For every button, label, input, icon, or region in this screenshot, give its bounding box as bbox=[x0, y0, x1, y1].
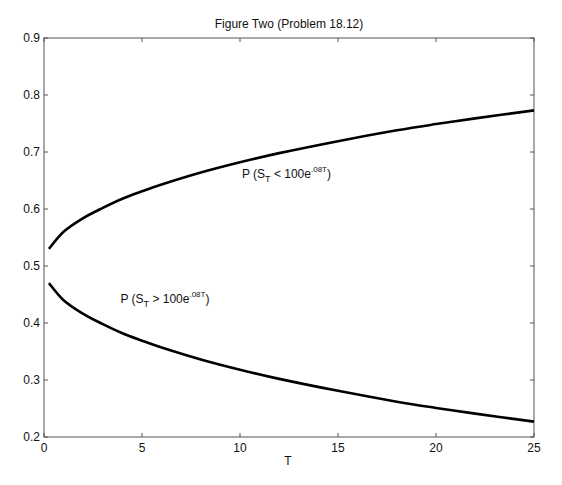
x-tick-label: 20 bbox=[429, 441, 443, 455]
x-axis-label: T bbox=[284, 454, 292, 468]
y-tick-label: 0.3 bbox=[23, 373, 40, 387]
y-axis-tick-labels: 0.20.30.40.50.60.70.80.9 bbox=[23, 31, 40, 444]
y-tick-label: 0.5 bbox=[23, 259, 40, 273]
chart-title: Figure Two (Problem 18.12) bbox=[215, 17, 364, 31]
x-axis-tick-labels: 0510152025 bbox=[41, 441, 541, 455]
y-tick-label: 0.4 bbox=[23, 316, 40, 330]
x-tick-label: 5 bbox=[139, 441, 146, 455]
x-tick-label: 0 bbox=[41, 441, 48, 455]
plot-area bbox=[44, 38, 534, 437]
x-tick-label: 25 bbox=[527, 441, 541, 455]
y-tick-label: 0.6 bbox=[23, 202, 40, 216]
y-tick-label: 0.7 bbox=[23, 145, 40, 159]
y-tick-label: 0.2 bbox=[23, 430, 40, 444]
x-tick-label: 10 bbox=[233, 441, 247, 455]
y-tick-label: 0.8 bbox=[23, 88, 40, 102]
line-chart: Figure Two (Problem 18.12) 0.20.30.40.50… bbox=[0, 0, 562, 485]
y-tick-label: 0.9 bbox=[23, 31, 40, 45]
x-tick-label: 15 bbox=[331, 441, 345, 455]
